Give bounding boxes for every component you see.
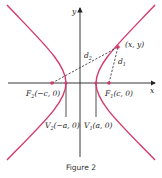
focus-f1-label: F1(c, 0) <box>104 89 133 99</box>
focus-f2-point <box>50 81 54 85</box>
hyperbola-left-branch <box>7 5 66 160</box>
vertex-v1-point <box>94 81 97 84</box>
d2-label: d2 <box>84 51 92 61</box>
figure-caption: Figure 2 <box>66 163 96 172</box>
d1-label: d1 <box>118 57 126 67</box>
y-axis-label: y <box>71 7 77 16</box>
point-xy <box>116 45 120 49</box>
focus-f2-label: F2(−c, 0) <box>25 89 60 99</box>
point-xy-label: (x, y) <box>125 40 144 49</box>
vertex-v2-point <box>64 81 67 84</box>
focus-f1-point <box>107 81 111 85</box>
hyperbola-right-branch <box>96 5 155 160</box>
vertex-v1-label: V1(a, 0) <box>84 121 113 131</box>
vertex-v2-label: V2(−a, 0) <box>45 121 80 131</box>
x-axis-label: x <box>150 86 155 95</box>
hyperbola-diagram: x y (x, y) d2 d1 F2(−c, 0) F1(c, 0) V2(−… <box>0 0 162 178</box>
